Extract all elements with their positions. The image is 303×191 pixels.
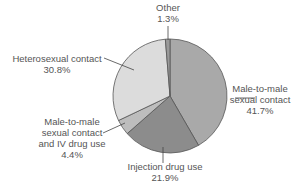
slice-category-label: sexual contact [230, 94, 291, 105]
slice-category-label: sexual contact [42, 127, 103, 138]
slice-value-label: 4.4% [61, 149, 83, 160]
slice-label: Male-to-malesexual contactand IV drug us… [38, 116, 105, 160]
slice-category-label: Male-to-male [232, 83, 287, 94]
slice-label: Injection drug use21.9% [128, 161, 203, 183]
slice-value-label: 21.9% [152, 172, 179, 183]
slice-category-label: Heterosexual contact [12, 53, 102, 64]
slice-category-label: and IV drug use [38, 138, 105, 149]
slice-label: Heterosexual contact30.8% [12, 53, 102, 75]
slice-category-label: Injection drug use [128, 161, 203, 172]
slice-label: Male-to-malesexual contact41.7% [230, 83, 291, 116]
slice-category-label: Other [156, 2, 180, 13]
slice-label: Other1.3% [156, 2, 180, 24]
slice-value-label: 41.7% [247, 105, 274, 116]
slice-category-label: Male-to-male [44, 116, 99, 127]
leader-line [103, 123, 125, 133]
slice-value-label: 30.8% [44, 64, 71, 75]
slice-value-label: 1.3% [157, 13, 179, 24]
pie-chart: Male-to-malesexual contact41.7%Injection… [0, 0, 303, 191]
